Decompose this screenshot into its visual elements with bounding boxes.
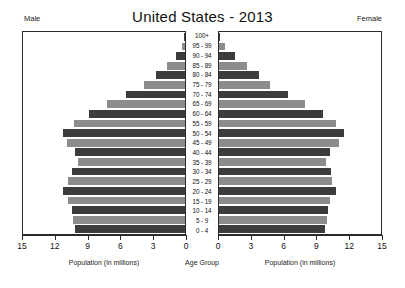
bar-row [23, 148, 185, 158]
bar-row [219, 61, 381, 71]
bar-row [219, 205, 381, 215]
axis-tick-label: 0 [184, 241, 189, 251]
male-bar-45-49 [67, 139, 185, 147]
female-bar-60-64 [219, 110, 323, 118]
male-side-label: Male [24, 14, 40, 23]
bar-row [219, 128, 381, 138]
bar-row [23, 90, 185, 100]
female-bar-50-54 [219, 129, 344, 137]
male-bar-75-79 [144, 81, 185, 89]
male-bar-70-74 [126, 91, 185, 99]
female-bar-70-74 [219, 91, 288, 99]
center-axis-title: Age Group [185, 259, 219, 266]
bar-row [23, 176, 185, 186]
female-bar-0-4 [219, 225, 325, 233]
female-bar-85-89 [219, 62, 247, 70]
female-bar-75-79 [219, 81, 270, 89]
axis-tick-label: 9 [85, 241, 90, 251]
female-bar-55-59 [219, 120, 336, 128]
female-bar-40-44 [219, 148, 330, 156]
female-bar-10-14 [219, 206, 328, 214]
male-bar-rows [23, 32, 185, 234]
male-bar-0-4 [75, 225, 185, 233]
bar-row [23, 196, 185, 206]
male-bar-65-69 [107, 100, 185, 108]
bar-row [23, 157, 185, 167]
female-axis-title: Population (in millions) [265, 259, 335, 266]
male-bar-100+ [184, 33, 185, 41]
male-axis-title: Population (in millions) [69, 259, 139, 266]
axis-tick-label: 15 [377, 241, 386, 251]
female-plot-panel [218, 31, 382, 235]
bar-row [23, 42, 185, 52]
axis-tick-label: 12 [50, 241, 59, 251]
female-bar-90-94 [219, 52, 235, 60]
male-bar-50-54 [63, 129, 185, 137]
axis-tick-label: 9 [314, 241, 319, 251]
bar-row [219, 32, 381, 42]
axis-tick [382, 235, 383, 240]
male-bar-30-34 [72, 168, 185, 176]
age-group-label: 65 - 69 [186, 99, 218, 109]
male-bar-40-44 [75, 148, 185, 156]
male-bar-85-89 [167, 62, 185, 70]
female-bar-30-34 [219, 168, 331, 176]
male-bar-80-84 [156, 71, 185, 79]
population-pyramid-chart: United States - 2013 Male Female 100+95 … [0, 0, 405, 288]
bar-row [23, 225, 185, 235]
male-bar-60-64 [89, 110, 185, 118]
bar-row [23, 205, 185, 215]
female-bar-5-9 [219, 216, 327, 224]
bar-row [219, 80, 381, 90]
bar-row [219, 186, 381, 196]
axis-tick [251, 235, 252, 240]
bar-row [23, 128, 185, 138]
age-group-label: 45 - 49 [186, 138, 218, 148]
axis-tick [88, 235, 89, 240]
axis-tick [284, 235, 285, 240]
bar-row [219, 138, 381, 148]
bar-row [23, 80, 185, 90]
bar-row [219, 99, 381, 109]
bar-row [219, 42, 381, 52]
age-group-label: 0 - 4 [186, 225, 218, 235]
age-group-label: 90 - 94 [186, 50, 218, 60]
female-axis-line [218, 235, 382, 236]
female-bar-20-24 [219, 187, 336, 195]
bar-row [219, 148, 381, 158]
female-bar-35-39 [219, 158, 326, 166]
axis-tick-label: 6 [118, 241, 123, 251]
axis-tick [218, 235, 219, 240]
male-bar-20-24 [63, 187, 185, 195]
axis-tick [55, 235, 56, 240]
chart-title: United States - 2013 [0, 8, 405, 25]
age-group-label: 35 - 39 [186, 157, 218, 167]
axis-tick-label: 15 [17, 241, 26, 251]
female-bar-25-29 [219, 177, 332, 185]
bar-row [219, 225, 381, 235]
axis-tick [186, 235, 187, 240]
female-bar-rows [219, 32, 381, 234]
axis-tick [22, 235, 23, 240]
female-bar-100+ [219, 33, 220, 41]
age-group-label: 70 - 74 [186, 89, 218, 99]
axis-tick-label: 3 [151, 241, 156, 251]
age-group-label: 50 - 54 [186, 128, 218, 138]
bar-row [219, 71, 381, 81]
male-bar-15-19 [68, 197, 185, 205]
bar-row [23, 138, 185, 148]
bar-row [23, 119, 185, 129]
bar-row [23, 51, 185, 61]
male-bar-5-9 [73, 216, 185, 224]
axis-tick [349, 235, 350, 240]
male-bar-10-14 [72, 206, 185, 214]
age-group-label: 5 - 9 [186, 216, 218, 226]
age-group-label: 20 - 24 [186, 187, 218, 197]
axis-tick [153, 235, 154, 240]
age-group-label: 25 - 29 [186, 177, 218, 187]
bar-row [219, 176, 381, 186]
bar-row [23, 186, 185, 196]
bar-row [23, 167, 185, 177]
male-axis-line [22, 235, 186, 236]
female-side-label: Female [357, 14, 382, 23]
